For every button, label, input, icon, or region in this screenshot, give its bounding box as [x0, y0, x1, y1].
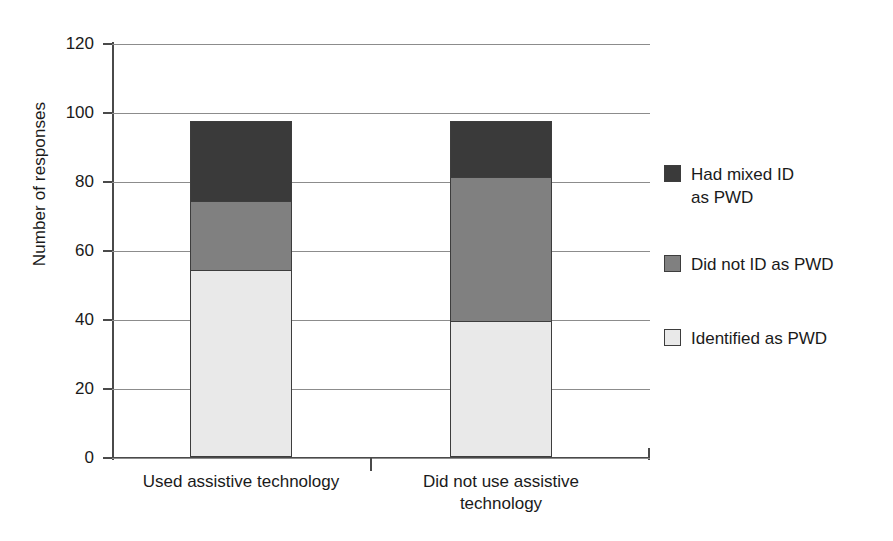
category-separator-tick	[370, 458, 372, 471]
x-axis-category-label: Did not use assistive technology	[351, 471, 651, 515]
y-axis-tick-label-wrap: 20	[50, 380, 94, 397]
y-axis-tick-label-wrap: 100	[50, 104, 94, 121]
legend-item[interactable]: Had mixed ID as PWD	[664, 163, 794, 209]
y-axis-tick	[103, 43, 112, 45]
y-axis-tick	[103, 250, 112, 252]
y-axis-tick	[103, 388, 112, 390]
legend-swatch-icon	[664, 165, 681, 182]
legend-label: Identified as PWD	[691, 327, 827, 350]
y-axis-tick-label-wrap: 80	[50, 173, 94, 190]
bar-stack	[190, 122, 292, 457]
y-axis-tick-label: 20	[50, 380, 94, 397]
y-axis-tick-label-wrap: 60	[50, 242, 94, 259]
legend-swatch-icon	[664, 329, 681, 346]
plot-area: 120100806040200	[112, 44, 650, 458]
legend-item[interactable]: Identified as PWD	[664, 327, 827, 350]
x-axis-category-label: Used assistive technology	[91, 471, 391, 493]
bar-segment	[450, 321, 552, 457]
bar-segment	[450, 121, 552, 177]
y-axis-tick-label: 80	[50, 173, 94, 190]
gridline	[112, 44, 650, 45]
bar-segment	[450, 177, 552, 323]
y-axis-tick	[103, 181, 112, 183]
y-axis-tick-label: 0	[50, 449, 94, 466]
y-axis-tick-label-wrap: 40	[50, 311, 94, 328]
bar-segment	[190, 201, 292, 271]
y-axis-tick-label-wrap: 120	[50, 35, 94, 52]
y-axis-tick-label-wrap: 0	[50, 449, 94, 466]
y-axis-tick	[103, 457, 112, 459]
y-axis-tick-label: 40	[50, 311, 94, 328]
y-axis-tick-label: 100	[50, 104, 94, 121]
legend-label: Had mixed ID as PWD	[691, 163, 794, 209]
y-axis-tick	[103, 319, 112, 321]
y-axis-title: Number of responses	[30, 74, 50, 294]
bar-stack	[450, 122, 552, 457]
legend-label: Did not ID as PWD	[691, 253, 834, 276]
legend-item[interactable]: Did not ID as PWD	[664, 253, 834, 276]
y-axis-tick-label: 60	[50, 242, 94, 259]
gridline	[112, 458, 650, 459]
gridline	[112, 113, 650, 114]
y-axis-tick-label: 120	[50, 35, 94, 52]
bar-segment	[190, 121, 292, 201]
stacked-bar-chart: Number of responses 120100806040200 Used…	[0, 0, 893, 541]
legend-swatch-icon	[664, 255, 681, 272]
bar-segment	[190, 270, 292, 457]
y-axis-tick	[103, 112, 112, 114]
